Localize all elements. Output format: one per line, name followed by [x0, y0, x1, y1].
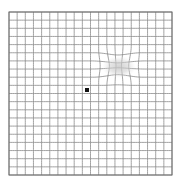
- amsler-grid-svg: [0, 0, 182, 192]
- scotoma-blob: [102, 56, 136, 78]
- chart-background: [0, 0, 182, 192]
- fixation-dot: [85, 88, 89, 92]
- grid-lines-group: [9, 12, 172, 175]
- amsler-grid-chart: [0, 0, 182, 192]
